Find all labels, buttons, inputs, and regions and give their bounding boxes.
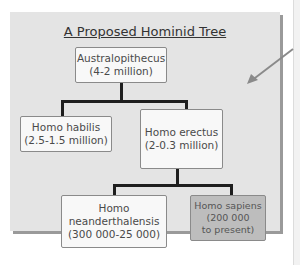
node-range: (2.5-1.5 million) bbox=[21, 134, 111, 147]
node-name: Homo habilis bbox=[21, 121, 111, 134]
connector-line bbox=[61, 100, 188, 103]
node-homo-habilis: Homo habilis (2.5-1.5 million) bbox=[20, 116, 112, 152]
node-range: (300 000-25 000) bbox=[62, 228, 166, 241]
node-range: (4-2 million) bbox=[76, 65, 166, 78]
connector-line bbox=[120, 82, 123, 101]
node-name: Homo sapiens bbox=[191, 200, 265, 212]
diagram-title: A Proposed Hominid Tree bbox=[10, 24, 280, 39]
page-edge bbox=[293, 0, 300, 265]
node-australopithecus: Australopithecus (4-2 million) bbox=[75, 47, 167, 83]
node-range-line2: to present) bbox=[191, 224, 265, 236]
node-homo-erectus: Homo erectus (2-0.3 million) bbox=[140, 109, 223, 169]
node-name: Homo erectus bbox=[141, 126, 222, 139]
node-range-line1: (200 000 bbox=[191, 212, 265, 224]
node-homo-neanderthalensis: Homo neanderthalensis (300 000-25 000) bbox=[61, 195, 167, 248]
pointer-arrow-icon bbox=[245, 47, 295, 87]
node-range: (2-0.3 million) bbox=[141, 139, 222, 152]
connector-line bbox=[176, 167, 179, 185]
connector-line bbox=[113, 184, 233, 187]
node-name: Australopithecus bbox=[76, 52, 166, 65]
hominid-tree-panel: A Proposed Hominid Tree Australopithecus… bbox=[10, 12, 280, 231]
node-name-line2: neanderthalensis bbox=[62, 215, 166, 228]
node-homo-sapiens: Homo sapiens (200 000 to present) bbox=[190, 195, 266, 241]
node-name-line1: Homo bbox=[62, 202, 166, 215]
